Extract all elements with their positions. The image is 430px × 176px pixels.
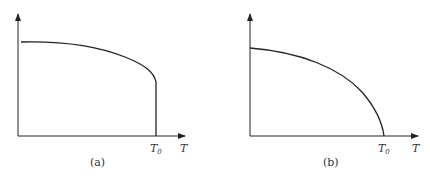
panel-a-t0-label: T0 xyxy=(150,142,162,156)
panel-b-t0-label: T0 xyxy=(378,142,390,156)
figure: T0 T (a) T0 T (b) xyxy=(0,0,430,176)
diagram-canvas: T0 T (a) T0 T (b) xyxy=(0,0,430,176)
panel-a-x-label: T xyxy=(180,142,189,155)
panel-b-curve xyxy=(250,48,384,136)
panel-a-caption: (a) xyxy=(90,156,105,169)
panel-a-curve xyxy=(21,42,156,136)
panel-b-x-label: T xyxy=(412,142,421,155)
panel-a: T0 T (a) xyxy=(18,14,189,169)
panel-b-caption: (b) xyxy=(323,156,339,169)
panel-b: T0 T (b) xyxy=(250,14,421,169)
